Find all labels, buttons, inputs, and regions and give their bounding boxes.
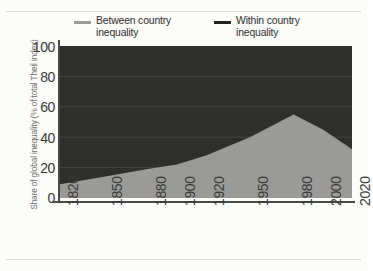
x-tick-label-1920: 1920 [211,150,227,206]
x-tick-label-1950: 1950 [255,150,271,206]
x-tick-label-1980: 1980 [299,150,315,206]
legend-entry-between-country[interactable]: Between country inequality [74,15,200,38]
x-tick-label-1820: 1820 [65,150,81,206]
x-tick-label-1850: 1850 [109,150,125,206]
x-tick-label-1900: 1900 [182,150,198,206]
legend-label-within-country: Within country inequality [236,15,340,38]
y-tick-label-80: 80 [25,70,55,84]
legend-entry-within-country[interactable]: Within country inequality [214,15,340,38]
y-tick-label-100: 100 [25,40,55,54]
y-tick-label-20: 20 [25,161,55,175]
page-rule-top [6,11,361,12]
x-tick-label-2020: 2020 [357,150,373,206]
y-tick-label-40: 40 [25,131,55,145]
legend-label-between-country: Between country inequality [96,15,200,38]
x-tick-label-1880: 1880 [153,150,169,206]
legend-swatch-line-icon [214,21,231,25]
x-tick-label-2000: 2000 [328,150,344,206]
y-tick-label-0: 0 [25,191,55,205]
page-rule-bottom [6,259,361,260]
y-axis-tick-labels: 100 80 60 40 20 0 [22,0,55,271]
y-tick-label-60: 60 [25,100,55,114]
legend-swatch-line-icon [74,21,91,24]
chart-legend: Between country inequality Within countr… [74,15,340,38]
